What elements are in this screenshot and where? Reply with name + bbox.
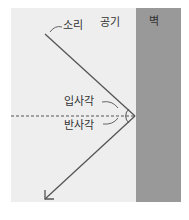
reflection-diagram [0, 0, 189, 220]
air-label: 공기 [100, 17, 120, 28]
sound-label: 소리 [63, 20, 83, 31]
wall-label: 벽 [149, 16, 159, 27]
reflection-angle-label: 반사각 [64, 120, 94, 131]
incidence-angle-label: 입사각 [64, 96, 94, 107]
wall-region [136, 8, 181, 202]
